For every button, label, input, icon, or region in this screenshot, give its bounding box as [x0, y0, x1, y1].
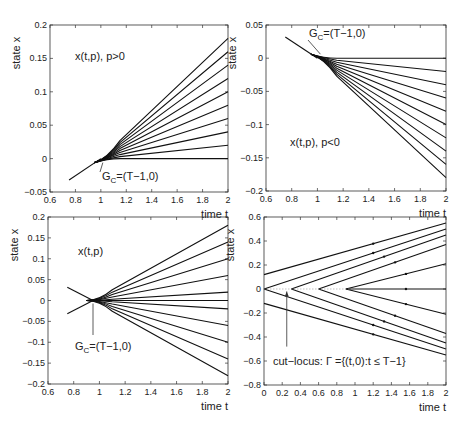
trajectory-line	[319, 289, 446, 333]
y-tick-label: −0.15	[240, 153, 263, 163]
arrow-icon	[308, 40, 320, 54]
y-tick-label: −0.15	[22, 358, 45, 368]
y-tick-label: −0.05	[24, 187, 47, 197]
y-tick-label: −0.1	[245, 120, 263, 130]
axes-frame	[266, 25, 446, 191]
y-tick-label: 0	[256, 284, 261, 294]
x-tick-label: 0.8	[69, 195, 82, 205]
y-tick-label: 0.05	[29, 120, 47, 130]
direction-arrow-icon	[372, 333, 374, 335]
trajectory-line	[87, 242, 228, 300]
plot-annotation: x(t,p)	[78, 245, 103, 257]
y-tick-label: 0	[258, 53, 263, 63]
direction-arrow-icon	[383, 320, 385, 322]
x-tick-label: 2	[225, 387, 230, 397]
x-tick-label: 2	[443, 388, 448, 398]
direction-arrow-icon	[372, 242, 374, 244]
x-tick-label: 1.4	[145, 195, 158, 205]
y-tick-label: 0.6	[248, 212, 261, 222]
x-tick-label: 1.4	[145, 387, 158, 397]
trajectory-line	[291, 235, 446, 289]
y-tick-label: 0.2	[248, 260, 261, 270]
y-tick-label: 0.2	[32, 212, 45, 222]
chart-panel-top-right: 0.60.811.21.41.61.82−0.2−0.15−0.1−0.0500…	[226, 20, 449, 219]
y-tick-label: −0.8	[243, 380, 261, 390]
trajectory-line	[87, 301, 228, 376]
x-tick-label: 1	[315, 194, 320, 204]
direction-arrow-icon	[394, 314, 396, 316]
gc-point-label: GC=(T−1,0)	[102, 170, 159, 185]
x-tick-label: 0.4	[294, 388, 307, 398]
x-tick-label: 1	[352, 388, 357, 398]
trajectory-line	[67, 301, 93, 314]
x-tick-label: 2	[443, 194, 448, 204]
y-tick-label: 0.2	[34, 20, 47, 30]
plot-annotation: cut−locus: Γ ={(t,0):t ≤ T−1}	[273, 355, 406, 367]
x-tick-label: 0	[261, 388, 266, 398]
x-tick-label: 1.6	[388, 194, 401, 204]
trajectory-line	[346, 289, 446, 314]
chart-panel-bottom-right: 00.20.40.60.811.21.41.61.82−0.8−0.6−0.4−…	[224, 212, 449, 413]
y-tick-label: −0.2	[27, 379, 45, 389]
x-axis-label: time t	[201, 400, 228, 412]
trajectory-line	[95, 159, 229, 163]
trajectory-line	[67, 287, 93, 300]
direction-arrow-icon	[405, 303, 407, 305]
x-axis-label: time t	[419, 401, 446, 413]
x-axis-label: time t	[201, 208, 228, 220]
y-tick-label: 0	[42, 154, 47, 164]
x-tick-label: 1.8	[422, 388, 435, 398]
x-tick-label: 1.6	[171, 195, 184, 205]
direction-arrow-icon	[394, 261, 396, 263]
x-tick-label: 1.2	[119, 387, 132, 397]
y-tick-label: −0.05	[240, 86, 263, 96]
x-tick-label: 1.2	[120, 195, 133, 205]
y-tick-label: 0	[40, 296, 45, 306]
x-tick-label: 1.4	[385, 388, 398, 398]
x-tick-label: 1.2	[337, 194, 350, 204]
x-tick-label: 1.8	[414, 194, 427, 204]
chart-panel-bottom-left: 0.60.811.21.41.61.82−0.2−0.15−0.1−0.0500…	[8, 212, 231, 412]
x-tick-label: 1.4	[363, 194, 376, 204]
y-tick-label: −0.05	[22, 316, 45, 326]
trajectory-line	[346, 264, 446, 289]
trajectory-line	[264, 289, 446, 349]
direction-arrow-icon	[372, 252, 374, 254]
y-tick-label: −0.6	[243, 356, 261, 366]
trajectory-line	[87, 225, 228, 300]
y-tick-label: 0.15	[29, 53, 47, 63]
y-tick-label: 0.05	[27, 275, 45, 285]
x-tick-label: 0.8	[331, 388, 344, 398]
x-tick-label: 1.2	[367, 388, 380, 398]
plot-annotation: x(t,p), p>0	[75, 50, 125, 62]
y-axis-label: state x	[224, 228, 236, 261]
trajectory-line	[264, 229, 446, 289]
x-tick-label: 0.8	[67, 387, 80, 397]
plot-annotation: x(t,p), p<0	[290, 136, 340, 148]
y-tick-label: 0.05	[245, 20, 263, 30]
y-axis-label: state x	[10, 36, 22, 69]
direction-arrow-icon	[383, 255, 385, 257]
gc-point-label: GC=(T−1,0)	[309, 27, 366, 42]
gc-point-label: GC=(T−1,0)	[75, 340, 132, 355]
y-tick-label: 0.1	[32, 254, 45, 264]
trajectory-line	[319, 245, 446, 289]
y-tick-label: 0.4	[248, 236, 261, 246]
y-tick-label: −0.1	[27, 337, 45, 347]
chart-panel-top-left: 0.60.811.21.41.61.82−0.0500.050.10.150.2…	[10, 20, 231, 220]
figure: 0.60.811.21.41.61.82−0.0500.050.10.150.2…	[0, 0, 466, 426]
direction-arrow-icon	[372, 324, 374, 326]
y-tick-label: −0.4	[243, 332, 261, 342]
y-tick-label: −0.2	[245, 186, 263, 196]
y-axis-label: state x	[8, 228, 20, 261]
x-tick-label: 1.8	[196, 195, 209, 205]
y-tick-label: 0.1	[34, 87, 47, 97]
trajectory-line	[311, 54, 446, 58]
x-tick-label: 1	[97, 387, 102, 397]
x-tick-label: 1.6	[403, 388, 416, 398]
trajectory-line	[311, 54, 446, 178]
trajectory-line	[291, 289, 446, 343]
y-tick-label: 0.15	[27, 233, 45, 243]
x-tick-label: 0.8	[285, 194, 298, 204]
x-tick-label: 0.2	[276, 388, 289, 398]
